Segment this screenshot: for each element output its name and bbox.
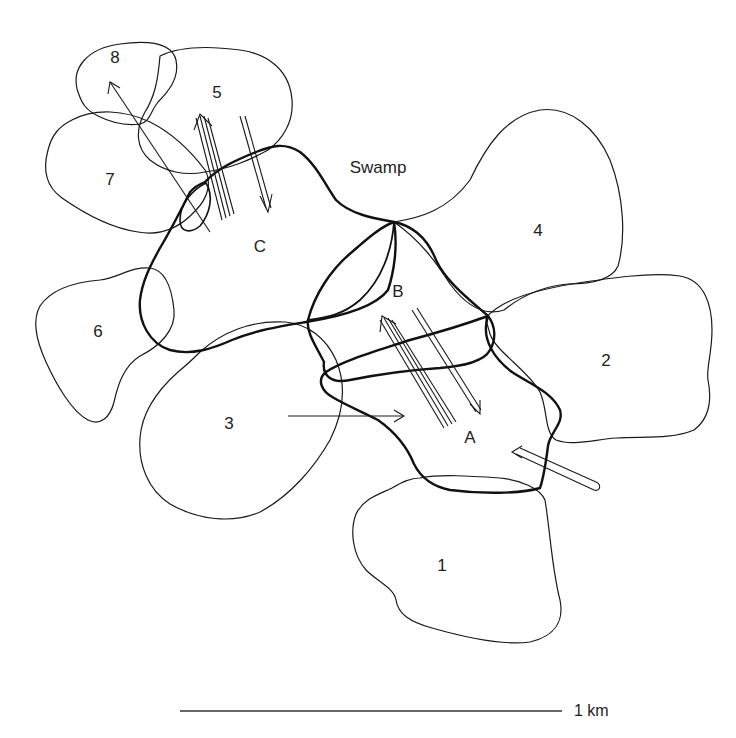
label-territory-b: B [392, 282, 403, 302]
arrow-5-to-c [240, 116, 272, 212]
home-range-1-outline [353, 476, 561, 643]
home-range-3-outline [140, 322, 343, 519]
home-range-2-outline [486, 275, 712, 443]
label-territory-a: A [464, 428, 475, 448]
arrow-3-to-a [288, 410, 404, 422]
territory-c-west-loop [180, 183, 210, 231]
label-home-range-3: 3 [224, 414, 233, 434]
home-range-7-outline [46, 112, 209, 233]
label-home-range-4: 4 [533, 221, 542, 241]
label-home-range-7: 7 [105, 170, 114, 190]
label-swamp: Swamp [350, 158, 407, 178]
label-home-range-6: 6 [93, 322, 102, 342]
label-territory-c: C [254, 237, 266, 257]
label-home-range-5: 5 [212, 83, 221, 103]
label-home-range-1: 1 [437, 556, 446, 576]
label-home-range-8: 8 [110, 48, 119, 68]
territory-b-inner-curve [308, 222, 394, 320]
label-home-range-2: 2 [601, 351, 610, 371]
territory-map [0, 0, 736, 738]
territory-a-outline [321, 316, 561, 493]
arrow-b-to-a [412, 308, 481, 414]
home-range-5-outline [138, 48, 292, 174]
scale-bar-label: 1 km [574, 702, 609, 720]
